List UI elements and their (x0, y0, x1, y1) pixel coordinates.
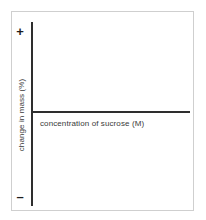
y-axis-label: change in mass (%) (17, 79, 26, 152)
positive-sign-label: + (13, 25, 27, 38)
graph-screenshot: + – change in mass (%) concentration of … (0, 0, 206, 220)
y-axis-line (31, 22, 33, 206)
x-axis-label: concentration of sucrose (M) (40, 119, 144, 128)
x-axis-line (31, 111, 190, 113)
negative-sign-label: – (13, 190, 27, 203)
